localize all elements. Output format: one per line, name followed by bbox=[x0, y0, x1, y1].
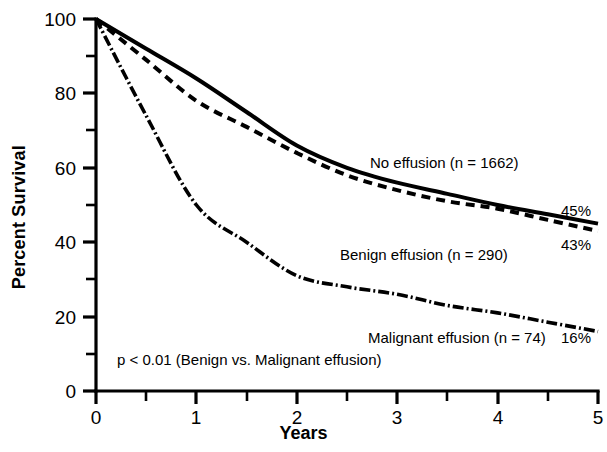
end-value-label-malignant-effusion: 16% bbox=[561, 330, 591, 345]
y-tick-label-20: 20 bbox=[20, 308, 76, 327]
plot-area bbox=[0, 0, 607, 452]
y-tick-label-100: 100 bbox=[20, 10, 76, 29]
end-value-label-no-effusion: 45% bbox=[561, 203, 591, 218]
p-value-annotation: p < 0.01 (Benign vs. Malignant effusion) bbox=[117, 352, 381, 367]
series-line-no-effusion bbox=[96, 19, 598, 224]
series-label-malignant-effusion: Malignant effusion (n = 74) bbox=[368, 330, 546, 345]
series-line-malignant-effusion bbox=[96, 19, 598, 331]
series-line-benign-effusion bbox=[96, 19, 598, 231]
survival-curve-figure: 100 80 60 40 20 0 0 1 2 3 4 5 Percent Su… bbox=[0, 0, 607, 452]
y-tick-label-80: 80 bbox=[20, 84, 76, 103]
end-value-label-benign-effusion: 43% bbox=[561, 237, 591, 252]
x-axis-title: Years bbox=[0, 424, 607, 442]
y-axis-title: Percent Survival bbox=[10, 145, 28, 289]
series-label-benign-effusion: Benign effusion (n = 290) bbox=[340, 247, 508, 262]
y-tick-label-0: 0 bbox=[20, 382, 76, 401]
series-label-no-effusion: No effusion (n = 1662) bbox=[370, 155, 519, 170]
